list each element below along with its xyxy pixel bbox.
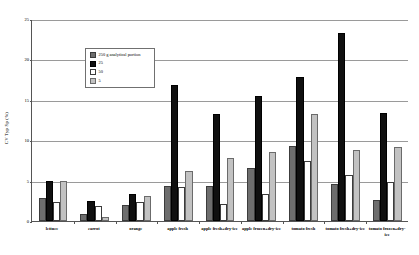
bar bbox=[373, 200, 380, 221]
bar bbox=[144, 196, 151, 221]
bar-group bbox=[366, 20, 408, 221]
legend-item: 25 bbox=[90, 61, 150, 67]
bar bbox=[255, 96, 262, 221]
legend-swatch-icon bbox=[90, 69, 96, 75]
bar bbox=[102, 217, 109, 221]
legend-label: 5 bbox=[99, 79, 101, 83]
bar bbox=[227, 158, 234, 221]
bar bbox=[331, 184, 338, 221]
bar bbox=[164, 186, 171, 221]
y-axis-tick-mark bbox=[30, 222, 33, 223]
bar bbox=[80, 214, 87, 221]
bar bbox=[304, 161, 311, 221]
bar bbox=[338, 33, 345, 221]
bar bbox=[380, 113, 387, 221]
bar bbox=[247, 168, 254, 221]
bar bbox=[122, 205, 129, 221]
bar bbox=[60, 181, 67, 221]
x-axis-tick-mark bbox=[199, 221, 200, 224]
bar-group bbox=[199, 20, 241, 221]
bar bbox=[213, 114, 220, 221]
bar bbox=[394, 147, 401, 221]
bar bbox=[178, 187, 185, 221]
legend-item: 250 g analytical portion bbox=[90, 52, 150, 58]
bar bbox=[171, 85, 178, 221]
x-axis-tick-label: tomato frozen+dry-ice bbox=[366, 226, 408, 238]
bar bbox=[262, 194, 269, 221]
legend-label: 250 g analytical portion bbox=[99, 53, 141, 57]
x-axis-tick-label: apple fresh bbox=[157, 226, 199, 238]
x-axis-tick-label: apple fresh+dry-ice bbox=[199, 226, 241, 238]
x-axis-tick-label: lettuce bbox=[31, 226, 73, 238]
bar bbox=[311, 114, 318, 221]
y-axis-tick-label: 25 bbox=[24, 18, 29, 23]
bar bbox=[129, 194, 136, 221]
legend-label: 25 bbox=[99, 61, 103, 65]
bar bbox=[269, 152, 276, 221]
bar bbox=[39, 198, 46, 221]
bar bbox=[185, 171, 192, 221]
legend-swatch-icon bbox=[90, 61, 96, 67]
x-axis-tick-mark bbox=[324, 221, 325, 224]
bar bbox=[87, 201, 94, 221]
x-axis-tick-mark bbox=[74, 221, 75, 224]
bar bbox=[95, 206, 102, 221]
x-axis-tick-label: tomato fresh bbox=[282, 226, 324, 238]
bar-group bbox=[324, 20, 366, 221]
x-axis-tick-label: apple frozen+dry-ice bbox=[240, 226, 282, 238]
x-axis-tick-mark bbox=[283, 221, 284, 224]
x-axis-tick-mark bbox=[116, 221, 117, 224]
bar bbox=[296, 77, 303, 221]
legend-label: 50 bbox=[99, 70, 103, 74]
legend-item: 50 bbox=[90, 69, 150, 75]
bar-group bbox=[241, 20, 283, 221]
legend-item: 5 bbox=[90, 78, 150, 84]
bar-group bbox=[283, 20, 325, 221]
x-axis-tick-mark bbox=[157, 221, 158, 224]
bar-chart: CV Typ Sp (%) 0510152025 lettucecarrotor… bbox=[0, 0, 419, 255]
x-axis-tick-label: orange bbox=[115, 226, 157, 238]
bar bbox=[353, 150, 360, 221]
bar-group bbox=[32, 20, 74, 221]
bar bbox=[46, 181, 53, 221]
bar bbox=[387, 182, 394, 221]
bar bbox=[289, 146, 296, 221]
y-axis-tick-label: 10 bbox=[24, 139, 29, 144]
legend-swatch-icon bbox=[90, 52, 96, 58]
bar bbox=[53, 202, 60, 221]
bar bbox=[136, 202, 143, 221]
bar bbox=[345, 175, 352, 221]
x-axis-labels: lettucecarrotorangeapple freshapple fres… bbox=[31, 226, 408, 238]
x-axis-tick-label: tomato fresh+dry-ice bbox=[324, 226, 366, 238]
y-axis-tick-label: 15 bbox=[24, 99, 29, 104]
bar-group bbox=[157, 20, 199, 221]
chart-legend: 250 g analytical portion 25 50 5 bbox=[85, 48, 155, 88]
x-axis-tick-mark bbox=[241, 221, 242, 224]
bar bbox=[206, 186, 213, 221]
x-axis-tick-mark bbox=[366, 221, 367, 224]
legend-swatch-icon bbox=[90, 78, 96, 84]
y-axis-label: CV Typ Sp (%) bbox=[5, 73, 10, 183]
x-axis-tick-label: carrot bbox=[73, 226, 115, 238]
bar bbox=[220, 204, 227, 221]
y-axis-tick-label: 20 bbox=[24, 58, 29, 63]
